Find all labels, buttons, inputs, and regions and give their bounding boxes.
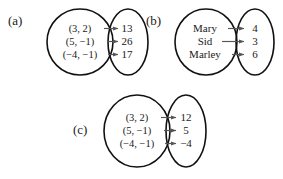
panel-c-tag: (c) — [73, 122, 87, 137]
panel-c-range-item-1: 5 — [183, 124, 189, 136]
panel-b-range-item-2: 6 — [252, 48, 258, 60]
panel-a-range-item-0: 13 — [122, 22, 134, 34]
panel-c: (c) (3, 2) (5, −1) (−4, −1) 12 5 −4 — [73, 95, 206, 167]
panel-c-range-item-2: −4 — [180, 137, 192, 149]
mapping-diagram-figure: (a) (3, 2) (5, −1) (−4, −1) 13 26 17 (b)… — [0, 0, 283, 179]
panel-a-domain-item-2: (−4, −1) — [63, 49, 98, 61]
panel-a: (a) (3, 2) (5, −1) (−4, −1) 13 26 17 — [8, 9, 148, 75]
panel-b-range-item-0: 4 — [252, 22, 258, 34]
panel-c-domain-item-2: (−4, −1) — [120, 138, 155, 150]
panel-b-domain-item-1: Sid — [198, 35, 213, 47]
panel-a-tag: (a) — [8, 13, 22, 28]
panel-b: (b) Mary Sid Marley 4 3 6 — [146, 9, 274, 75]
panel-a-domain-item-0: (3, 2) — [69, 23, 92, 35]
panel-c-range-item-0: 12 — [181, 111, 192, 123]
panel-b-domain-item-2: Marley — [189, 48, 221, 60]
panel-c-domain-item-1: (5, −1) — [123, 125, 152, 137]
figure-container: (a) (3, 2) (5, −1) (−4, −1) 13 26 17 (b)… — [0, 0, 283, 179]
panel-b-domain-item-0: Mary — [193, 22, 217, 34]
panel-a-range-item-2: 17 — [122, 48, 134, 60]
panel-a-domain-item-1: (5, −1) — [66, 36, 95, 48]
panel-b-range-item-1: 3 — [252, 35, 258, 47]
panel-c-domain-item-0: (3, 2) — [126, 112, 149, 124]
panel-b-tag: (b) — [146, 13, 161, 28]
panel-a-range-item-1: 26 — [122, 35, 134, 47]
